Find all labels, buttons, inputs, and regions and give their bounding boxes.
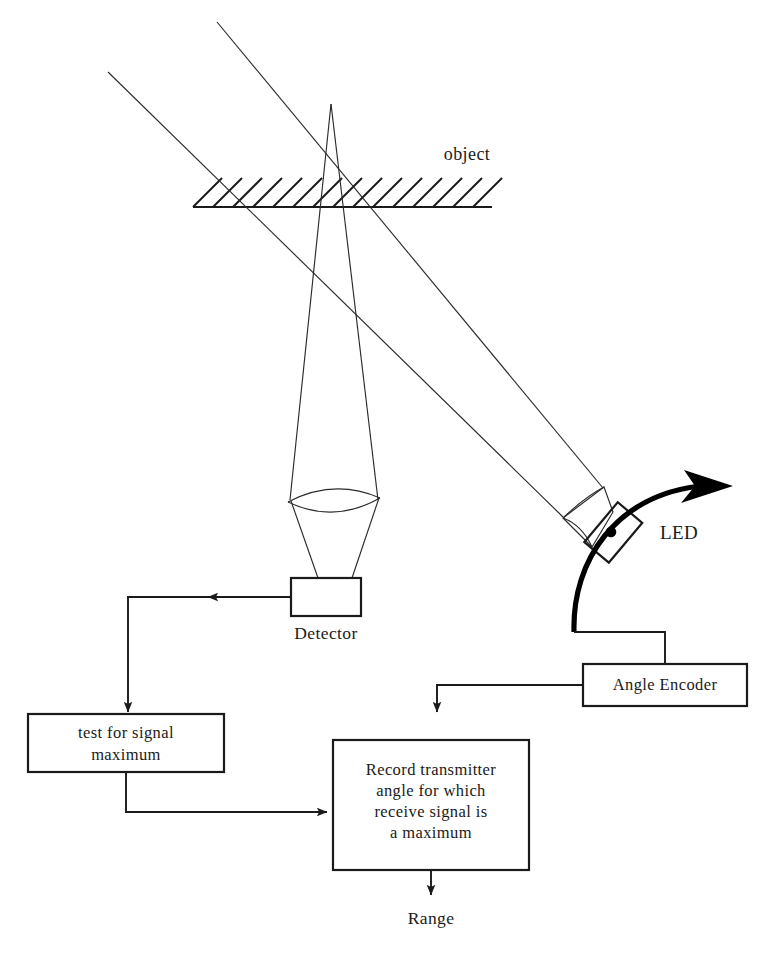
diagram-canvas: Detector LED object bbox=[0, 0, 773, 953]
led-label: LED bbox=[660, 522, 698, 543]
detector-assembly: Detector bbox=[288, 489, 380, 643]
scan-rotation-arrow bbox=[574, 470, 733, 632]
rangefinder-diagram: Detector LED object bbox=[0, 0, 773, 953]
object-hatching bbox=[193, 178, 502, 207]
arrow-encoder-to-record bbox=[437, 685, 583, 712]
record-box-line-1: Record transmitter bbox=[366, 760, 497, 779]
record-box-line-4: a maximum bbox=[390, 823, 472, 842]
block-test-for-signal-maximum: test for signal maximum bbox=[28, 714, 224, 772]
test-box-line-2: maximum bbox=[91, 745, 161, 764]
arrow-detector-to-test bbox=[128, 597, 208, 712]
arrow-test-to-record bbox=[126, 772, 327, 812]
record-box-line-3: receive signal is bbox=[374, 802, 487, 821]
led-to-angle-encoder-wire bbox=[574, 632, 665, 664]
object-surface bbox=[193, 178, 502, 207]
record-box-line-2: angle for which bbox=[376, 781, 486, 800]
test-box-line-1: test for signal bbox=[78, 723, 174, 742]
block-record-transmitter-angle: Record transmitter angle for which recei… bbox=[333, 740, 529, 870]
angle-encoder-label: Angle Encoder bbox=[613, 675, 718, 694]
range-output-label: Range bbox=[408, 908, 455, 928]
receive-lens-icon bbox=[288, 489, 380, 512]
block-angle-encoder: Angle Encoder bbox=[583, 664, 747, 706]
object-label: object bbox=[444, 144, 490, 164]
transmit-beam-rays bbox=[108, 22, 603, 517]
detector-label: Detector bbox=[294, 623, 357, 643]
